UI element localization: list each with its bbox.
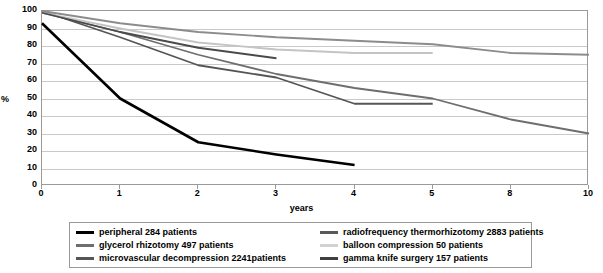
x-tick-label: 3 — [263, 188, 287, 198]
x-tick-label: 1 — [107, 188, 131, 198]
y-tick-label: 80 — [7, 40, 37, 49]
y-tick-label: 70 — [7, 58, 37, 67]
legend-swatch-icon — [76, 231, 94, 234]
legend-label: gamma knife surgery 157 patients — [343, 253, 488, 263]
legend-entry: peripheral 284 patients — [76, 226, 314, 239]
legend-label: glycerol rhizotomy 497 patients — [99, 240, 234, 250]
y-axis-ticks: 1009080706050403020100 — [0, 0, 37, 273]
legend-label: balloon compression 50 patients — [343, 240, 483, 250]
legend-entry: balloon compression 50 patients — [320, 239, 531, 252]
y-axis-title: % — [1, 94, 9, 104]
x-tick-label: 10 — [576, 188, 600, 198]
legend-entry: radiofrequency thermorhizotomy 2883 pati… — [320, 226, 531, 239]
y-tick-label: 50 — [7, 93, 37, 102]
legend-column-right: radiofrequency thermorhizotomy 2883 pati… — [314, 223, 531, 267]
legend-swatch-icon — [320, 244, 338, 247]
legend-entry: microvascular decompression 2241patients — [76, 252, 314, 265]
x-tick-mark — [510, 185, 511, 189]
series-lines — [42, 11, 589, 186]
legend-label: peripheral 284 patients — [99, 227, 197, 237]
x-tick-mark — [197, 185, 198, 189]
y-tick-label: 90 — [7, 23, 37, 32]
y-tick-label: 100 — [7, 5, 37, 14]
legend-swatch-icon — [76, 257, 94, 260]
x-tick-label: 4 — [342, 188, 366, 198]
x-tick-mark — [354, 185, 355, 189]
legend-label: radiofrequency thermorhizotomy 2883 pati… — [343, 227, 544, 237]
line-chart: 1009080706050403020100 % years periphera… — [0, 0, 603, 273]
x-tick-label: 5 — [420, 188, 444, 198]
x-tick-label: 2 — [185, 188, 209, 198]
legend-entry: gamma knife surgery 157 patients — [320, 252, 531, 265]
legend-swatch-icon — [320, 257, 338, 260]
y-tick-label: 40 — [7, 110, 37, 119]
y-tick-label: 10 — [7, 163, 37, 172]
series-line — [42, 23, 355, 165]
legend-swatch-icon — [320, 231, 338, 234]
series-line — [42, 13, 589, 134]
x-tick-label: 8 — [498, 188, 522, 198]
x-tick-mark — [432, 185, 433, 189]
x-tick-mark — [588, 185, 589, 189]
x-axis-title: years — [0, 203, 603, 213]
legend-column-left: peripheral 284 patientsglycerol rhizotom… — [70, 223, 314, 267]
y-tick-label: 20 — [7, 145, 37, 154]
x-tick-label: 0 — [29, 188, 53, 198]
legend-swatch-icon — [76, 244, 94, 247]
x-tick-mark — [119, 185, 120, 189]
chart-legend: peripheral 284 patientsglycerol rhizotom… — [69, 222, 532, 268]
series-line — [42, 13, 433, 53]
y-tick-label: 60 — [7, 75, 37, 84]
y-tick-label: 30 — [7, 128, 37, 137]
x-tick-mark — [275, 185, 276, 189]
legend-entry: glycerol rhizotomy 497 patients — [76, 239, 314, 252]
plot-area — [41, 10, 588, 185]
x-tick-mark — [41, 185, 42, 189]
legend-label: microvascular decompression 2241patients — [99, 253, 286, 263]
